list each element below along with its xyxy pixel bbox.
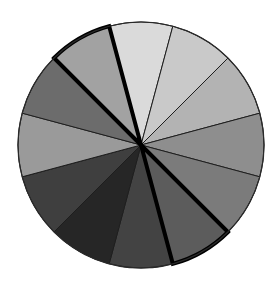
- pie-chart: [0, 0, 280, 286]
